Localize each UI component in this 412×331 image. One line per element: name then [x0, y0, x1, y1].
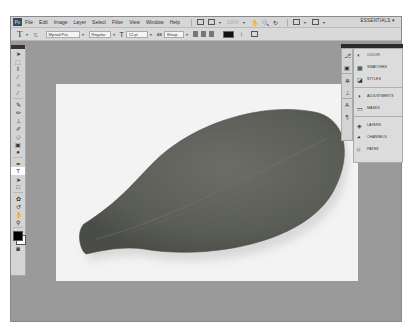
shape-tool-icon[interactable]: □	[11, 183, 25, 191]
swatches-icon: ▦	[357, 64, 364, 71]
brush-tool-icon[interactable]: ✏	[11, 108, 25, 116]
menu-select[interactable]: Select	[92, 19, 106, 25]
panel-tab-color[interactable]: ◐COLOR	[354, 49, 402, 61]
menu-file[interactable]: File	[25, 19, 33, 25]
launch-bridge-icon[interactable]	[197, 19, 204, 25]
panel-tab-layers[interactable]: ◈LAYERS	[354, 119, 402, 131]
lasso-tool-icon[interactable]: ℓ	[11, 65, 25, 73]
masks-icon: ▭	[357, 105, 364, 112]
type-tool-icon[interactable]: T	[11, 167, 25, 175]
crop-tool-icon[interactable]: ⌗	[11, 81, 25, 89]
chevron-down-icon[interactable]: ▾	[243, 20, 245, 25]
document-canvas[interactable]	[56, 84, 358, 281]
workspace-label: ESSENTIALS	[361, 18, 391, 23]
divider	[13, 227, 23, 228]
menu-view[interactable]: View	[129, 19, 140, 25]
gradient-tool-icon[interactable]: ▣	[11, 140, 25, 148]
color-icon: ◐	[357, 52, 364, 58]
quick-mask-icon[interactable]: ◙	[11, 245, 25, 253]
styles-icon: ◪	[357, 76, 364, 83]
zoom-icon[interactable]: 🔍	[262, 19, 269, 26]
eyedropper-tool-icon[interactable]: ⁄	[11, 89, 25, 97]
antialias-select[interactable]: Sharp	[164, 31, 184, 38]
panel-tab-swatches[interactable]: ▦SWATCHES	[354, 61, 402, 73]
panel-tab-label: COLOR	[367, 53, 380, 57]
menu-filter[interactable]: Filter	[112, 19, 123, 25]
panel-tab-label: STYLES	[367, 77, 381, 81]
menu-edit[interactable]: Edit	[39, 19, 48, 25]
font-size-select[interactable]: 12 pt	[126, 31, 148, 38]
rotate-view-icon[interactable]: ↻	[273, 19, 278, 26]
font-style-select[interactable]: Regular	[89, 31, 111, 38]
type-tool-preset-icon[interactable]: T	[17, 29, 23, 39]
adjustments-icon: ◑	[357, 93, 364, 99]
history-panel-icon[interactable]: ⎇	[342, 49, 352, 61]
divider	[13, 157, 23, 158]
panel-tab-channels[interactable]: ◕CHANNELS	[354, 131, 402, 143]
eraser-tool-icon[interactable]: ◇	[11, 132, 25, 140]
divider	[191, 19, 192, 26]
chevron-down-icon[interactable]: ▾	[304, 20, 306, 25]
dodge-tool-icon[interactable]: ●	[11, 148, 25, 156]
zoom-tool-icon[interactable]: ⚲	[11, 218, 25, 226]
panel-tab-paths[interactable]: ⌑PATHS	[354, 143, 402, 155]
align-right-icon[interactable]	[209, 31, 214, 37]
color-swatches[interactable]	[11, 229, 25, 245]
chevron-down-icon[interactable]: ▾	[82, 32, 84, 37]
quick-select-tool-icon[interactable]: ⁄	[11, 73, 25, 81]
character-panel-icon[interactable]	[251, 31, 258, 37]
chevron-down-icon[interactable]: ▾	[323, 20, 325, 25]
hand-tool-icon[interactable]: ✋	[11, 210, 25, 218]
collapsed-panel-icons: ⎇ ▣ ✲ ⊥ A ¶	[341, 48, 353, 141]
warp-text-icon[interactable]: ⌇	[240, 31, 243, 38]
chevron-down-icon[interactable]: ▾	[219, 20, 221, 25]
chevron-down-icon[interactable]: ▾	[26, 32, 28, 37]
chevron-down-icon[interactable]: ▾	[113, 32, 115, 37]
screen-mode-icon[interactable]	[312, 19, 319, 25]
menu-layer[interactable]: Layer	[74, 19, 87, 25]
character-panel-icon[interactable]: A	[342, 99, 352, 111]
text-orientation-icon[interactable]: ⇅	[33, 31, 38, 38]
panel-tab-styles[interactable]: ◪STYLES	[354, 73, 402, 85]
panel-tab-label: LAYERS	[367, 123, 381, 127]
zoom-level-field[interactable]: 100%	[227, 20, 239, 25]
font-style-value: Regular	[92, 32, 106, 37]
panel-tab-label: PATHS	[367, 147, 378, 151]
path-selection-tool-icon[interactable]: ➤	[11, 175, 25, 183]
navigator-panel-icon[interactable]: ▣	[342, 61, 352, 73]
workspace-switcher[interactable]: ESSENTIALS ▾	[361, 18, 395, 23]
arrange-documents-icon[interactable]	[293, 19, 300, 25]
font-family-select[interactable]: Myriad Pro	[46, 31, 80, 38]
pen-tool-icon[interactable]: ✒	[11, 159, 25, 167]
paragraph-panel-icon[interactable]: ¶	[342, 111, 352, 123]
ps-logo[interactable]: Ps	[13, 18, 22, 26]
align-center-icon[interactable]	[201, 31, 206, 37]
history-brush-tool-icon[interactable]: ✐	[11, 124, 25, 132]
panel-tab-masks[interactable]: ▭MASKS	[354, 102, 402, 114]
brush-panel-icon[interactable]: ✲	[342, 74, 352, 86]
align-left-icon[interactable]	[193, 31, 198, 37]
chevron-down-icon[interactable]: ▾	[186, 32, 188, 37]
text-color-swatch[interactable]	[223, 31, 234, 38]
options-bar: T ▾ ⇅ Myriad Pro ▾ Regular ▾ T 12 pt ▾ a…	[11, 28, 401, 41]
divider	[354, 116, 402, 117]
menu-help[interactable]: Help	[170, 19, 180, 25]
clone-stamp-tool-icon[interactable]: ⊥	[11, 116, 25, 124]
menu-image[interactable]: Image	[54, 19, 68, 25]
view-extras-icon[interactable]	[208, 19, 215, 25]
menu-bar: Ps File Edit Image Layer Select Filter V…	[11, 17, 401, 28]
3d-camera-tool-icon[interactable]: ↺	[11, 202, 25, 210]
move-tool-icon[interactable]: ➤	[11, 49, 25, 57]
menu-window[interactable]: Window	[146, 19, 164, 25]
chevron-down-icon[interactable]: ▾	[150, 32, 152, 37]
clone-source-panel-icon[interactable]: ⊥	[342, 86, 352, 98]
divider	[13, 98, 23, 99]
foreground-color-swatch[interactable]	[13, 231, 23, 241]
3d-rotate-tool-icon[interactable]: ✿	[11, 194, 25, 202]
marquee-tool-icon[interactable]: ⬚	[11, 57, 25, 65]
leaf-image	[56, 84, 358, 281]
hand-icon[interactable]: ✋	[251, 19, 258, 26]
healing-brush-tool-icon[interactable]: ✎	[11, 100, 25, 108]
panel-tab-adjustments[interactable]: ◑ADJUSTMENTS	[354, 90, 402, 102]
divider	[287, 19, 288, 26]
